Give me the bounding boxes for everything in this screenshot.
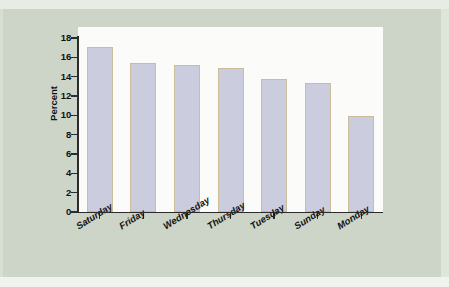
y-axis-tick-label-wrap: 0 (39, 206, 71, 218)
y-axis-tick-label: 18 (45, 32, 71, 43)
bar (218, 68, 244, 212)
y-axis-tick-label: 4 (45, 167, 71, 178)
bar (174, 65, 200, 212)
y-axis-tick-label-wrap: 18 (39, 32, 71, 44)
y-axis-title: Percent (48, 86, 59, 121)
y-axis-tick-label: 6 (45, 148, 71, 159)
y-axis-line (77, 36, 79, 213)
y-axis-tick-label-wrap: 6 (39, 148, 71, 160)
y-axis-tick-label-wrap: 16 (39, 51, 71, 63)
bar (261, 79, 287, 212)
y-axis-tick-label-wrap: 8 (39, 129, 71, 141)
bar-chart: 024681012141618 SaturdayFridayWednesdayT… (0, 0, 449, 287)
y-axis-tick-label-wrap: 14 (39, 71, 71, 83)
y-axis-tick-label: 8 (45, 129, 71, 140)
y-axis-tick-label-wrap: 4 (39, 167, 71, 179)
y-axis-tick-label: 2 (45, 187, 71, 198)
chart-page: 024681012141618 SaturdayFridayWednesdayT… (0, 0, 449, 287)
bar (348, 116, 374, 212)
y-axis-tick-label-wrap: 2 (39, 187, 71, 199)
y-axis-tick-label: 14 (45, 71, 71, 82)
y-axis-tick-label: 16 (45, 51, 71, 62)
x-axis-line (77, 212, 383, 214)
bar (130, 63, 156, 212)
bar (305, 83, 331, 212)
bar (87, 47, 113, 212)
y-axis-tick-label: 0 (45, 206, 71, 217)
